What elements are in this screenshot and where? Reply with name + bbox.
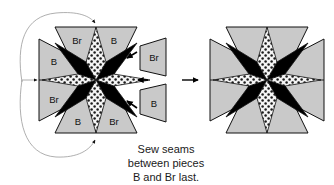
left-star-dotted-points [42, 27, 150, 133]
label-left-top: B [51, 56, 57, 67]
label-left-bottom: Br [49, 94, 59, 105]
left-diagram-group: Br B B Br B Br Br B [20, 13, 166, 158]
caption-line-1: Sew seams [138, 143, 195, 155]
right-star-dotted-points [213, 27, 321, 133]
quilt-diagram-figure: Br B B Br B Br Br B [0, 0, 334, 185]
right-diagram-group [210, 27, 324, 133]
label-detached-upper: Br [149, 52, 159, 63]
label-top-left: Br [72, 35, 82, 46]
caption-line-2: between pieces [128, 157, 205, 169]
label-top-right: B [111, 35, 117, 46]
label-bottom-right: Br [109, 116, 119, 127]
caption-group: Sew seams between pieces B and Br last. [128, 143, 205, 183]
diagram-canvas: Br B B Br B Br Br B [0, 0, 334, 185]
caption-line-3: B and Br last. [133, 171, 199, 183]
label-detached-lower: B [151, 98, 157, 109]
label-bottom-left: B [75, 116, 81, 127]
